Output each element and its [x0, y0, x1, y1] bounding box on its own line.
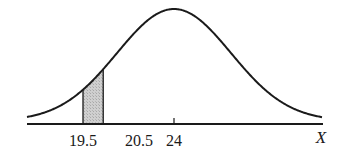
x-axis-label: X: [315, 128, 327, 147]
normal-distribution-chart: 19.5 20.5 24 X: [0, 0, 348, 161]
tick-label-19-5: 19.5: [69, 132, 97, 149]
shaded-probability-region: [83, 69, 103, 124]
tick-label-24: 24: [166, 132, 182, 149]
normal-curve: [27, 9, 322, 117]
tick-label-20-5: 20.5: [125, 132, 153, 149]
